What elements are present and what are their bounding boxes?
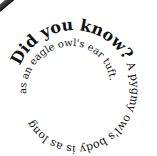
spiral-text-graphic: Did you know? A pygmy owl's body is as l… xyxy=(0,0,157,156)
fact-body-outer: A pygmy owl's body is as long xyxy=(24,56,141,156)
